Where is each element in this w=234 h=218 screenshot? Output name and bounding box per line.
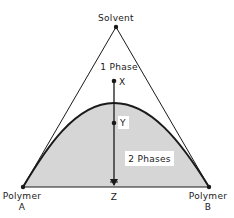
- point-y-dot: [112, 121, 117, 126]
- two-phase-label: 2 Phases: [128, 154, 171, 164]
- vertex-polymer-b-dot: [207, 185, 211, 189]
- point-y-label: Y: [119, 118, 126, 128]
- point-z-label: Z: [111, 192, 117, 202]
- one-phase-label: 1 Phase: [100, 62, 138, 72]
- vertex-polymer-a-dot: [21, 185, 25, 189]
- point-x-dot: [112, 79, 117, 84]
- vertex-solvent-dot: [114, 25, 118, 29]
- vertex-polymer-b-label: Polymer: [189, 191, 228, 201]
- vertex-polymer-a-sublabel: A: [19, 202, 26, 212]
- vertex-polymer-b-sublabel: B: [205, 202, 211, 212]
- ternary-phase-diagram: Solvent 1 Phase X Y 2 Phases Z Polymer A…: [0, 0, 234, 218]
- point-x-label: X: [119, 77, 125, 87]
- vertex-solvent-label: Solvent: [98, 13, 134, 23]
- vertex-polymer-a-label: Polymer: [3, 191, 42, 201]
